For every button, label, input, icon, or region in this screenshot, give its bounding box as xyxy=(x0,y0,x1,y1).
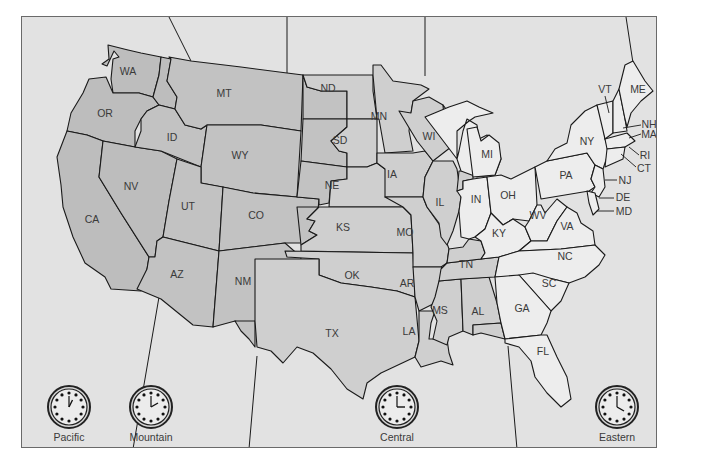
time-zone-map: WA OR CA NV ID MT WY UT CO AZ NM ND SD N… xyxy=(21,16,657,448)
label-ms: MS xyxy=(432,304,448,316)
label-me: ME xyxy=(630,83,646,95)
clock-central xyxy=(376,386,418,428)
label-sc: SC xyxy=(542,277,557,289)
clock-label-central: Central xyxy=(380,431,414,443)
leader-ma xyxy=(629,134,641,138)
label-wa: WA xyxy=(120,65,137,77)
label-il: IL xyxy=(436,196,445,208)
label-nv: NV xyxy=(124,180,139,192)
clock-label-eastern: Eastern xyxy=(599,431,635,443)
label-ut: UT xyxy=(181,200,196,212)
label-ne: NE xyxy=(325,179,340,191)
label-ky: KY xyxy=(492,227,506,239)
state-tx-west[interactable] xyxy=(235,321,255,347)
label-ca: CA xyxy=(85,213,100,225)
label-ok: OK xyxy=(344,269,359,281)
label-ny: NY xyxy=(580,135,595,147)
label-pa: PA xyxy=(559,169,572,181)
label-ma: MA xyxy=(641,128,657,140)
label-ga: GA xyxy=(514,302,529,314)
leader-ri xyxy=(629,147,639,155)
label-az: AZ xyxy=(170,268,184,280)
clock-mountain xyxy=(130,386,172,428)
state-fl-panhandle[interactable] xyxy=(473,323,505,339)
label-tn: TN xyxy=(459,258,473,270)
label-nd: ND xyxy=(320,82,336,94)
label-al: AL xyxy=(472,305,485,317)
label-wi: WI xyxy=(423,130,436,142)
label-mn: MN xyxy=(371,110,387,122)
label-nc: NC xyxy=(557,250,573,262)
state-mt[interactable] xyxy=(167,57,303,131)
label-ks: KS xyxy=(336,221,350,233)
label-tx: TX xyxy=(325,327,338,339)
label-nj: NJ xyxy=(619,174,632,186)
label-va: VA xyxy=(560,220,573,232)
mountain-central-boundary-south xyxy=(249,356,257,448)
label-sd: SD xyxy=(333,134,348,146)
clock-label-mountain: Mountain xyxy=(129,431,172,443)
leader-ct xyxy=(621,154,636,167)
label-nm: NM xyxy=(235,275,251,287)
label-in: IN xyxy=(471,193,482,205)
state-ct-ri[interactable] xyxy=(605,147,625,167)
label-wy: WY xyxy=(232,149,249,161)
label-la: LA xyxy=(403,325,416,337)
clock-pacific xyxy=(48,386,90,428)
label-ri: RI xyxy=(640,149,651,161)
label-wv: WV xyxy=(530,209,547,221)
label-or: OR xyxy=(97,107,113,119)
label-md: MD xyxy=(616,205,633,217)
label-ia: IA xyxy=(387,168,397,180)
label-id: ID xyxy=(167,131,178,143)
label-mo: MO xyxy=(397,226,414,238)
label-vt: VT xyxy=(598,83,612,95)
clock-label-pacific: Pacific xyxy=(54,431,85,443)
pacific-mountain-boundary-north xyxy=(169,17,191,61)
eastern-boundary-northeast xyxy=(626,17,633,63)
label-mi: MI xyxy=(481,148,493,160)
label-ar: AR xyxy=(400,277,415,289)
clock-eastern xyxy=(596,386,638,428)
label-co: CO xyxy=(248,209,264,221)
label-oh: OH xyxy=(500,189,516,201)
us-map-svg: WA OR CA NV ID MT WY UT CO AZ NM ND SD N… xyxy=(22,17,657,448)
central-eastern-boundary-south xyxy=(508,346,517,448)
label-fl: FL xyxy=(537,345,549,357)
label-ct: CT xyxy=(637,162,652,174)
label-de: DE xyxy=(616,191,631,203)
label-mt: MT xyxy=(216,87,232,99)
